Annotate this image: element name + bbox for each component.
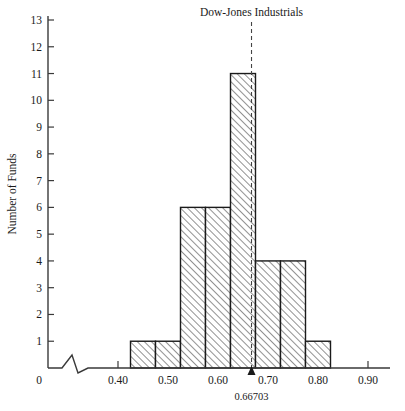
histogram-bar: [256, 261, 281, 368]
y-tick-label: 8: [36, 148, 42, 160]
y-tick-label: 6: [36, 201, 42, 213]
histogram-bar: [306, 341, 331, 368]
y-tick-label: 3: [36, 282, 42, 294]
y-tick-label: 9: [36, 121, 42, 133]
y-tick-label: 7: [36, 175, 42, 187]
histogram-chart: 12345678910111213 0.400.500.600.700.800.…: [0, 0, 405, 411]
dow-jones-label: Dow-Jones Industrials: [200, 6, 304, 18]
histogram-bar: [131, 341, 156, 368]
y-tick-label: 2: [36, 308, 42, 320]
histogram-bar: [156, 341, 181, 368]
x-tick-label: 0.40: [108, 374, 128, 386]
y-tick-label: 12: [31, 41, 43, 53]
y-axis-title: Number of Funds: [6, 153, 18, 235]
y-tick-label: 1: [36, 335, 42, 347]
histogram-bar: [281, 261, 306, 368]
histogram-bar: [181, 207, 206, 368]
chart-canvas: 12345678910111213 0.400.500.600.700.800.…: [0, 0, 405, 411]
dow-jones-value-label: 0.66703: [234, 391, 268, 402]
x-tick-label: 0.50: [158, 374, 178, 386]
x-tick-label: 0.90: [358, 374, 378, 386]
y-tick-label: 10: [31, 94, 43, 106]
histogram-bar: [206, 207, 231, 368]
y-tick-label: 13: [31, 14, 43, 26]
x-tick-label: 0.70: [258, 374, 278, 386]
y-tick-label: 5: [36, 228, 42, 240]
y-tick-label: 4: [36, 255, 42, 267]
x-tick-label: 0.60: [208, 374, 228, 386]
x-tick-label: 0.80: [308, 374, 328, 386]
origin-label: 0: [36, 374, 42, 386]
y-tick-label: 11: [31, 68, 42, 80]
